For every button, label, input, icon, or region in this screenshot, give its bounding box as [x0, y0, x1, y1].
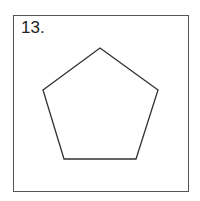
pentagon-figure [0, 0, 200, 201]
pentagon-shape [43, 48, 158, 159]
